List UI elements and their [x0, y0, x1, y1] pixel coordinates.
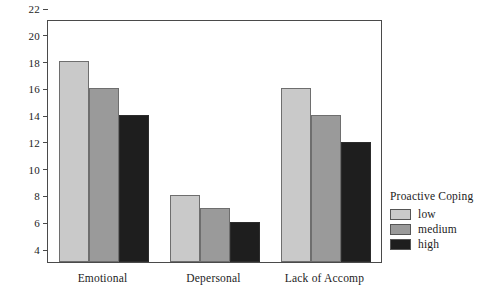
y-axis-tick-label: 18 — [29, 57, 43, 69]
bar — [170, 195, 200, 262]
legend-item-label: high — [418, 238, 439, 250]
bar — [281, 88, 311, 262]
bar-series-layer — [48, 21, 381, 262]
y-axis-tick: 12 — [29, 137, 48, 149]
y-axis-tick-label: 4 — [34, 244, 43, 256]
legend-title: Proactive Coping — [390, 190, 490, 202]
y-axis-tick: 10 — [29, 164, 48, 176]
x-axis-category-label: Emotional — [78, 272, 128, 284]
legend-item: medium — [390, 223, 490, 235]
legend-swatch — [390, 209, 411, 220]
bar — [89, 88, 119, 262]
y-axis-tick: 8 — [34, 190, 48, 202]
y-axis-tick-label: 16 — [29, 83, 43, 95]
chart-page: 22201816141210864 EmotionalDepersonalLac… — [0, 0, 492, 303]
y-axis-tick: 14 — [29, 110, 48, 122]
legend-item: low — [390, 208, 490, 220]
y-axis-tick: 16 — [29, 83, 48, 95]
y-axis-tick-label: 14 — [29, 110, 43, 122]
y-axis-tick-label: 8 — [34, 190, 43, 202]
legend-swatch — [390, 224, 411, 235]
y-axis-tick-label: 22 — [29, 3, 43, 15]
y-axis-tick-label: 6 — [34, 217, 43, 229]
y-axis-tick: 6 — [34, 217, 48, 229]
bar — [230, 222, 260, 262]
x-axis-category-label: Depersonal — [186, 272, 240, 284]
y-axis-tick: 18 — [29, 57, 48, 69]
y-axis-tick: 4 — [34, 244, 48, 256]
y-axis-tick: 22 — [29, 3, 48, 15]
legend-swatch — [390, 239, 411, 250]
y-axis-tick-label: 20 — [29, 30, 43, 42]
y-axis-tick-label: 12 — [29, 137, 43, 149]
y-axis-tick-label: 10 — [29, 164, 43, 176]
legend-items: lowmediumhigh — [390, 208, 490, 250]
plot-area: 22201816141210864 — [47, 20, 382, 263]
y-axis-tick: 20 — [29, 30, 48, 42]
bar — [311, 115, 341, 262]
x-axis-category-label: Lack of Accomp — [285, 272, 364, 284]
bar — [59, 61, 89, 262]
y-axis-tick-mark — [43, 9, 48, 10]
legend-item: high — [390, 238, 490, 250]
bar — [119, 115, 149, 262]
legend: Proactive Coping lowmediumhigh — [390, 190, 490, 253]
legend-item-label: low — [418, 208, 436, 220]
bar — [200, 208, 230, 262]
legend-item-label: medium — [418, 223, 457, 235]
bar — [341, 142, 371, 263]
